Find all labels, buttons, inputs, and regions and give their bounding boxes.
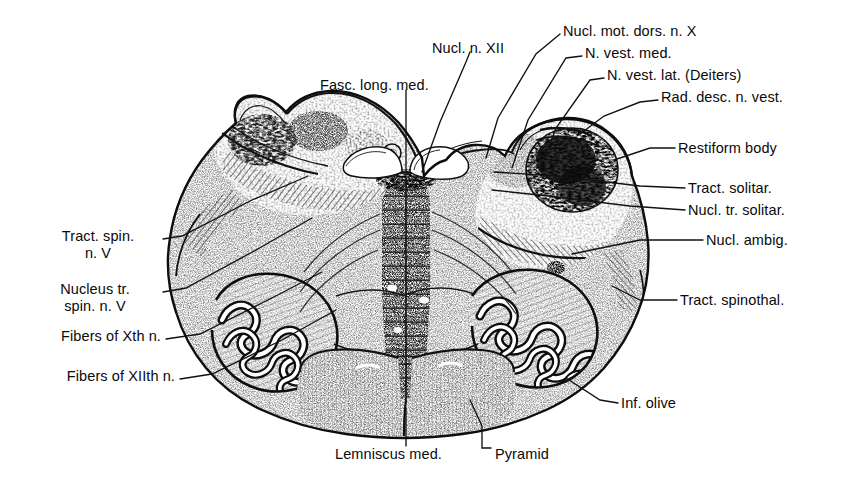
label-rad-desc-n-vest: Rad. desc. n. vest.	[661, 89, 783, 106]
label-fasc-long-med: Fasc. long. med.	[320, 77, 429, 94]
label-nucleus-tr-spin-n-v: Nucleus tr. spin. n. V	[32, 281, 158, 314]
label-nucl-n-xii: Nucl. n. XII	[432, 40, 504, 57]
label-inf-olive: Inf. olive	[621, 395, 676, 412]
figure-page: Nucl. mot. dors. n. X N. vest. med. N. v…	[0, 0, 845, 498]
label-n-vest-lat: N. vest. lat. (Deiters)	[607, 67, 741, 84]
label-tract-spinothal: Tract. spinothal.	[680, 292, 784, 309]
label-nucl-ambig: Nucl. ambig.	[706, 232, 788, 249]
label-fibers-of-xiith-n: Fibers of XIIth n.	[20, 368, 175, 385]
label-pyramid: Pyramid	[495, 446, 549, 463]
label-restiform-body: Restiform body	[678, 140, 777, 157]
label-lemniscus-med: Lemniscus med.	[335, 446, 442, 463]
label-tract-spin-n-v: Tract. spin. n. V	[38, 228, 158, 261]
label-n-vest-med: N. vest. med.	[585, 45, 672, 62]
label-tract-solitar: Tract. solitar.	[688, 180, 772, 197]
label-nucl-tr-solitar: Nucl. tr. solitar.	[688, 202, 785, 219]
label-nucl-mot-dors-n-x: Nucl. mot. dors. n. X	[563, 23, 696, 40]
label-fibers-of-xth-n: Fibers of Xth n.	[20, 328, 161, 345]
